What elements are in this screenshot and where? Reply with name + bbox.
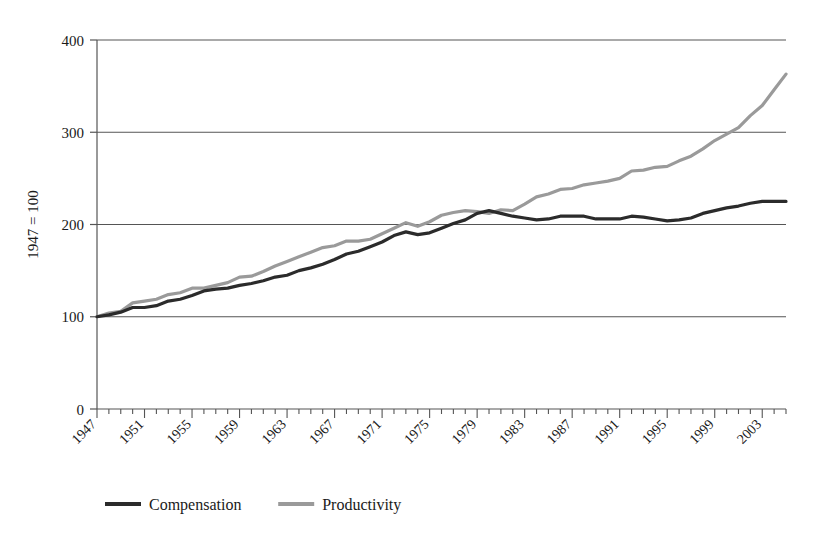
legend-label: Compensation — [149, 496, 241, 514]
x-tick-label: 1955 — [164, 417, 194, 447]
series-line-productivity — [97, 74, 786, 317]
y-axis-tick-labels: 0100200300400 — [62, 33, 85, 418]
x-tick-label: 1971 — [354, 417, 384, 447]
data-series — [97, 74, 786, 317]
y-tick-label: 400 — [62, 33, 85, 49]
y-tick-label: 0 — [77, 402, 85, 418]
x-tick-label: 1979 — [449, 417, 479, 447]
chart-legend: CompensationProductivity — [105, 496, 401, 514]
x-tick-label: 2003 — [734, 417, 764, 447]
x-tick-label: 1975 — [401, 417, 431, 447]
x-tick-label: 1947 — [69, 417, 99, 447]
legend-label: Productivity — [322, 496, 401, 514]
y-axis-title: 1947 = 100 — [25, 190, 41, 258]
x-axis-tick-labels: 1947195119551959196319671971197519791983… — [69, 417, 765, 447]
x-tick-label: 1983 — [496, 417, 526, 447]
x-tick-label: 1967 — [306, 417, 336, 447]
x-tick-label: 1959 — [211, 417, 241, 447]
gridlines — [97, 40, 786, 317]
x-axis-ticks — [97, 409, 786, 418]
x-tick-label: 1963 — [259, 417, 289, 447]
y-tick-label: 300 — [62, 125, 85, 141]
line-chart: 0100200300400 19471951195519591963196719… — [0, 0, 816, 541]
y-tick-label: 100 — [62, 309, 85, 325]
chart-container: 0100200300400 19471951195519591963196719… — [0, 0, 816, 541]
x-tick-label: 1987 — [544, 417, 574, 447]
y-tick-label: 200 — [62, 217, 85, 233]
x-tick-label: 1999 — [686, 417, 716, 447]
series-line-compensation — [97, 201, 786, 316]
x-tick-label: 1951 — [116, 417, 146, 447]
x-tick-label: 1991 — [591, 417, 621, 447]
y-axis-title-text: 1947 = 100 — [25, 190, 41, 258]
x-tick-label: 1995 — [639, 417, 669, 447]
